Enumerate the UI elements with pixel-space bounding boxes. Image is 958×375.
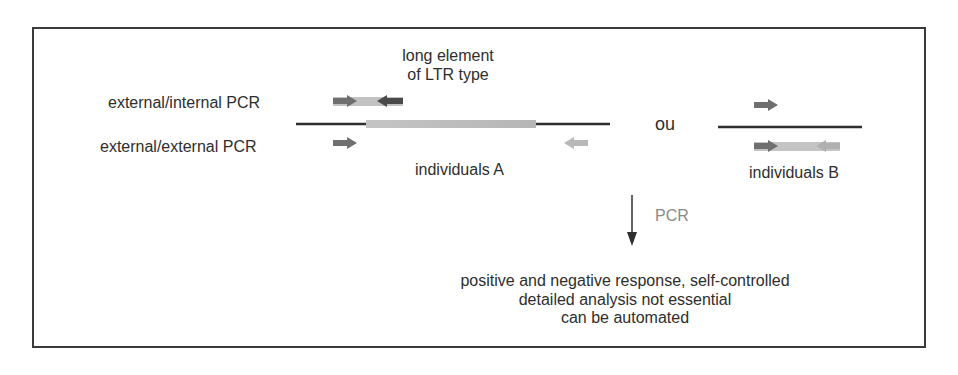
individuals-a-locus <box>296 120 610 128</box>
pcr-down-arrow-icon <box>627 195 637 246</box>
diagram-graphics <box>0 0 958 375</box>
external-internal-primers-a <box>333 95 403 107</box>
individuals-b-locus <box>718 99 862 152</box>
external-external-primers-a <box>333 137 588 149</box>
forward-primer-arrow-icon <box>333 137 357 149</box>
reverse-external-primer-arrow-icon <box>564 137 588 149</box>
forward-primer-arrow-icon <box>754 99 778 111</box>
ltr-element-a <box>366 120 536 128</box>
